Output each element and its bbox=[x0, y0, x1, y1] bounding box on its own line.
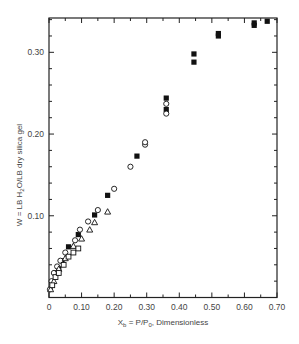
data-point-open-square bbox=[56, 271, 61, 276]
data-point-open-circle bbox=[85, 219, 90, 224]
data-point-open-square bbox=[76, 246, 81, 251]
x-tick-label: 0 bbox=[47, 302, 52, 312]
data-point-filled-square bbox=[76, 232, 81, 237]
y-axis-ticks bbox=[49, 20, 277, 282]
x-tick-label: 0.50 bbox=[204, 302, 221, 312]
data-point-filled-square bbox=[265, 19, 270, 24]
y-axis-tick-labels: 0.100.200.30 bbox=[27, 47, 44, 220]
data-point-open-circle bbox=[95, 207, 100, 212]
data-point-open-circle bbox=[164, 111, 169, 116]
data-point-filled-square bbox=[105, 193, 110, 198]
data-point-open-triangle bbox=[105, 209, 111, 214]
data-point-open-circle bbox=[128, 164, 133, 169]
series-filled-square bbox=[50, 19, 270, 286]
data-point-filled-square bbox=[92, 212, 97, 217]
y-tick-label: 0.30 bbox=[27, 47, 44, 57]
plot-frame bbox=[49, 18, 277, 298]
data-point-open-circle bbox=[72, 238, 77, 243]
x-tick-label: 0.60 bbox=[236, 302, 253, 312]
data-points bbox=[47, 19, 269, 292]
x-axis-ticks bbox=[49, 18, 277, 298]
x-tick-label: 0.30 bbox=[138, 302, 155, 312]
data-point-open-circle bbox=[164, 101, 169, 106]
data-point-open-triangle bbox=[87, 227, 93, 232]
data-point-open-circle bbox=[112, 186, 117, 191]
x-tick-label: 0.70 bbox=[269, 302, 286, 312]
data-point-filled-square bbox=[134, 154, 139, 159]
y-tick-label: 0.20 bbox=[27, 129, 44, 139]
data-point-open-square bbox=[66, 254, 71, 259]
data-point-filled-square bbox=[216, 31, 221, 36]
x-tick-label: 0.10 bbox=[73, 302, 90, 312]
x-tick-label: 0.40 bbox=[171, 302, 188, 312]
data-point-filled-square bbox=[252, 20, 257, 25]
x-axis-label: Xb = P/P0, Dimensionless bbox=[118, 318, 209, 328]
data-point-filled-square bbox=[191, 60, 196, 65]
data-point-open-square bbox=[71, 250, 76, 255]
data-point-open-circle bbox=[77, 227, 82, 232]
data-point-open-square bbox=[50, 283, 55, 288]
x-tick-label: 0.20 bbox=[106, 302, 123, 312]
y-tick-label: 0.10 bbox=[27, 211, 44, 221]
y-axis-label: W = LB H2O/LB dry silica gel bbox=[15, 124, 25, 226]
data-point-open-square bbox=[61, 262, 66, 267]
data-point-filled-square bbox=[164, 95, 169, 100]
data-point-open-triangle bbox=[92, 219, 98, 224]
scatter-chart: 00.100.200.300.400.500.600.70 0.100.200.… bbox=[0, 0, 299, 344]
data-point-filled-square bbox=[191, 51, 196, 56]
x-axis-tick-labels: 00.100.200.300.400.500.600.70 bbox=[47, 302, 286, 312]
data-point-open-circle bbox=[142, 140, 147, 145]
